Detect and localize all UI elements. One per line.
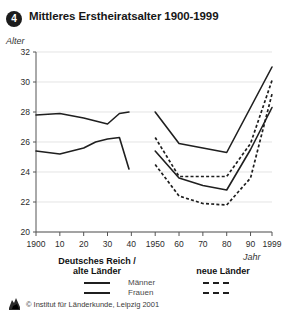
svg-text:1999: 1999	[263, 239, 282, 249]
plot-area: 2022242628303219001020304019506070809019…	[0, 44, 282, 249]
legend-group-left: Deutsches Reich / alte Länder	[38, 256, 156, 276]
legend-swatch-right-women	[203, 292, 229, 294]
copyright-text: © Institut für Länderkunde, Leipzig 2001	[26, 300, 159, 309]
legend-swatch-right-men	[203, 282, 229, 284]
series-line	[155, 67, 272, 153]
svg-text:26: 26	[21, 137, 31, 147]
legend-swatch-left-women	[84, 292, 110, 294]
legend-label-men: Männer	[128, 278, 155, 287]
svg-text:80: 80	[222, 239, 232, 249]
page-title: Mittleres Erstheiratsalter 1900-1999	[29, 10, 218, 22]
legend-swatch-left-men	[84, 282, 110, 284]
svg-text:32: 32	[21, 47, 31, 57]
figure-header: 4 Mittleres Erstheiratsalter 1900-1999	[0, 10, 282, 34]
svg-text:24: 24	[21, 167, 31, 177]
institute-logo-icon	[8, 297, 22, 312]
svg-text:28: 28	[21, 107, 31, 117]
svg-text:40: 40	[127, 239, 137, 249]
svg-text:30: 30	[103, 239, 113, 249]
figure-footer: © Institut für Länderkunde, Leipzig 2001	[0, 296, 282, 315]
svg-text:90: 90	[246, 239, 256, 249]
svg-text:1900: 1900	[27, 239, 46, 249]
figure-number-badge: 4	[6, 11, 22, 27]
chart-figure: 4 Mittleres Erstheiratsalter 1900-1999 A…	[0, 0, 282, 315]
svg-text:1950: 1950	[146, 239, 165, 249]
svg-text:20: 20	[79, 239, 89, 249]
svg-text:70: 70	[198, 239, 208, 249]
series-line	[36, 112, 129, 124]
legend-group-right: neue Länder	[178, 266, 268, 276]
series-line	[155, 108, 272, 191]
svg-text:10: 10	[55, 239, 65, 249]
legend-left-line2: alte Länder	[73, 266, 121, 276]
legend-left-line1: Deutsches Reich /	[58, 256, 136, 266]
chart-legend: Deutsches Reich / alte Länder neue Lände…	[0, 256, 282, 296]
svg-text:60: 60	[174, 239, 184, 249]
line-chart-canvas: 2022242628303219001020304019506070809019…	[0, 44, 282, 249]
svg-text:22: 22	[21, 197, 31, 207]
svg-text:20: 20	[21, 227, 31, 237]
svg-text:30: 30	[21, 77, 31, 87]
